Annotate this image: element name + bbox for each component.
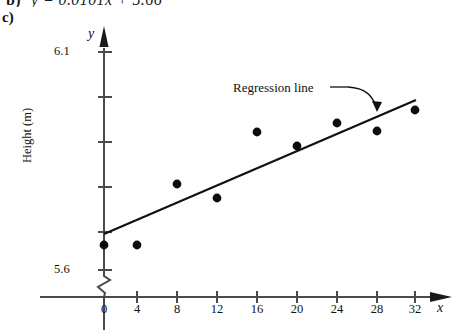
annotation-leader-curve (348, 87, 376, 106)
data-point (411, 106, 420, 115)
data-point (333, 119, 342, 128)
x-tick-label: 20 (283, 302, 311, 317)
x-tick-label: 0 (90, 302, 118, 317)
x-axis-arrowhead (430, 292, 452, 302)
x-tick-label: 32 (401, 302, 429, 317)
data-point (293, 142, 302, 151)
data-point (253, 128, 262, 137)
x-tick-label: 16 (243, 302, 271, 317)
data-point (173, 180, 182, 189)
x-tick-label: 24 (323, 302, 351, 317)
annotation-arrowhead (372, 101, 382, 112)
data-point (213, 194, 222, 203)
figure-canvas: b)y = 0.0101x + 5.66 c) Height (m) y x R… (0, 0, 457, 336)
x-tick-label: 12 (203, 302, 231, 317)
y-axis-arrowhead (100, 26, 109, 47)
y-axis-break-zigzag (98, 272, 110, 297)
regression-line (104, 100, 416, 234)
data-point-group (100, 106, 420, 250)
y-tick-label: 6.1 (54, 44, 70, 59)
data-point (373, 127, 382, 136)
x-tick-label: 4 (123, 302, 151, 317)
y-tick-label: 5.6 (54, 262, 70, 277)
x-tick-label: 28 (363, 302, 391, 317)
data-point (100, 241, 109, 250)
data-point (133, 241, 142, 250)
x-tick-label: 8 (163, 302, 191, 317)
